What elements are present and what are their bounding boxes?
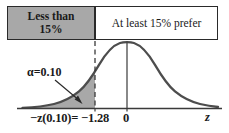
- normal-distribution-figure: Less than 15% At least 15% prefer α=0.10…: [0, 0, 229, 133]
- alpha-annotation: α=0.10: [27, 65, 62, 80]
- less-than-15-percent-box: Less than 15%: [7, 6, 95, 40]
- zero-tick-label: 0: [123, 111, 129, 126]
- z-axis-name-label: z: [205, 110, 210, 125]
- at-least-15-percent-box: At least 15% prefer: [95, 6, 218, 40]
- left-box-line1: Less than: [28, 10, 75, 22]
- left-box-line2: 15%: [39, 23, 62, 35]
- right-box-label: At least 15% prefer: [112, 17, 202, 30]
- critical-value-tick-label: −z(0.10)= −1.28: [30, 111, 109, 126]
